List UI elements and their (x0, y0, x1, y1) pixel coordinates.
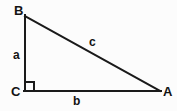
side-label-b: b (73, 95, 80, 107)
vertex-label-a: A (163, 85, 172, 98)
right-triangle-diagram: B C A a b c (0, 0, 177, 111)
triangle-figure (0, 0, 177, 111)
side-label-a: a (13, 49, 20, 61)
vertex-label-b: B (14, 4, 23, 17)
vertex-label-c: C (11, 85, 20, 98)
right-angle-marker-icon (25, 82, 34, 91)
side-label-c: c (89, 36, 96, 48)
hypotenuse-line-c (25, 16, 160, 91)
